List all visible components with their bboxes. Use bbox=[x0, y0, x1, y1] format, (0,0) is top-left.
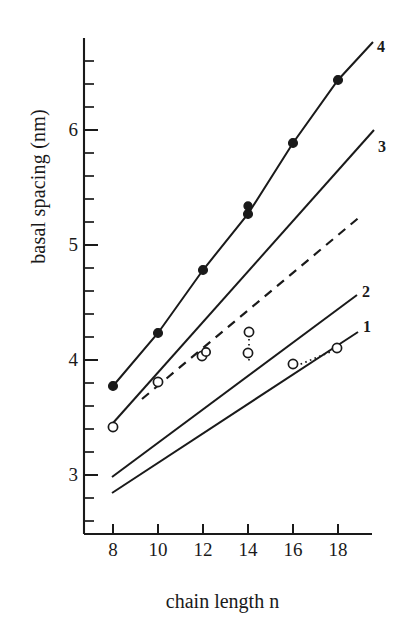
x-axis-label: chain length n bbox=[0, 590, 405, 613]
data-point bbox=[109, 382, 118, 391]
curve-label-2: 2 bbox=[362, 283, 370, 301]
y-tick-label-5: 5 bbox=[52, 234, 78, 256]
x-tick-label-16: 16 bbox=[276, 539, 310, 561]
data-point-open bbox=[288, 359, 297, 368]
y-tick-label-4: 4 bbox=[52, 349, 78, 371]
x-tick-label-12: 12 bbox=[186, 539, 220, 561]
x-tick-label-18: 18 bbox=[321, 539, 355, 561]
x-tick-label-10: 10 bbox=[141, 539, 175, 561]
data-point bbox=[289, 139, 298, 148]
data-point bbox=[334, 76, 343, 85]
data-point bbox=[199, 266, 208, 275]
curve-label-1: 1 bbox=[363, 318, 371, 336]
data-point bbox=[244, 210, 253, 219]
curve-label-3: 3 bbox=[378, 138, 386, 156]
data-point-open bbox=[243, 348, 252, 357]
x-tick-label-14: 14 bbox=[231, 539, 265, 561]
data-point bbox=[244, 202, 252, 210]
y-tick-label-3: 3 bbox=[52, 464, 78, 486]
curve-label-4: 4 bbox=[377, 38, 385, 56]
data-point-open bbox=[202, 348, 210, 356]
data-point-open bbox=[108, 422, 117, 431]
y-axis-label: basal spacing (nm) bbox=[27, 77, 50, 297]
data-point-open bbox=[153, 377, 162, 386]
data-point-open bbox=[332, 343, 341, 352]
y-tick-label-6: 6 bbox=[52, 119, 78, 141]
data-point bbox=[154, 329, 163, 338]
data-point-open bbox=[244, 327, 253, 336]
x-tick-label-8: 8 bbox=[96, 539, 130, 561]
